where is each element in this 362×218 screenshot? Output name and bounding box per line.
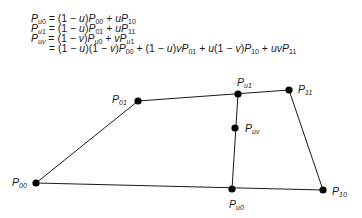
- point-pu1: [234, 90, 241, 97]
- edge-p01-p11: [138, 90, 289, 101]
- point-p10: [319, 186, 326, 193]
- edge-p00-p01: [36, 101, 138, 183]
- label-p01: P01: [112, 93, 127, 105]
- point-p11: [285, 86, 292, 93]
- point-pu0: [228, 185, 235, 192]
- point-p01: [134, 97, 141, 104]
- label-p10: P10: [332, 185, 347, 197]
- edge-p00-p10: [36, 183, 323, 190]
- label-p00: P00: [12, 176, 27, 188]
- points: [32, 86, 326, 193]
- edge-p11-p10: [289, 90, 323, 190]
- label-pu1: Pu1: [237, 76, 252, 88]
- point-p00: [32, 179, 39, 186]
- label-pu0: Pu0: [229, 198, 244, 210]
- label-p11: P11: [298, 83, 312, 95]
- edge-pu0-pu1: [232, 94, 238, 189]
- point-puv: [231, 124, 238, 131]
- edges: [36, 90, 323, 190]
- label-puv: Puv: [245, 122, 259, 134]
- bilinear-patch-diagram: [0, 0, 362, 218]
